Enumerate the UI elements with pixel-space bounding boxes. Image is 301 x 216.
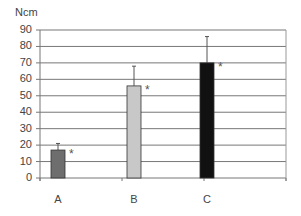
significance-marker: * [218, 60, 223, 74]
y-tick-label: 70 [8, 56, 32, 68]
x-tick-label: A [48, 193, 68, 205]
y-tick-label: 10 [8, 155, 32, 167]
y-tick-label: 50 [8, 89, 32, 101]
bar-c [200, 63, 214, 178]
bar-a [51, 150, 65, 178]
y-tick-label: 40 [8, 105, 32, 117]
y-tick-label: 90 [8, 23, 32, 35]
y-tick-label: 0 [8, 171, 32, 183]
bar-b [127, 86, 141, 178]
significance-marker: * [145, 83, 150, 97]
x-tick-label: C [197, 193, 217, 205]
significance-marker: * [69, 147, 74, 161]
y-tick-label: 30 [8, 122, 32, 134]
y-tick-label: 80 [8, 39, 32, 51]
y-tick-label: 60 [8, 72, 32, 84]
plot-area: *** [0, 0, 301, 216]
y-tick-label: 20 [8, 138, 32, 150]
x-tick-label: B [124, 193, 144, 205]
bar-chart: Ncm *** 0102030405060708090 ABC [0, 0, 301, 216]
